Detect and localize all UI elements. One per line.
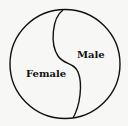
region-label-female: Female [26,68,66,79]
s-curve-divider [53,10,80,118]
gender-circle-diagram: Male Female [0,0,128,126]
outer-circle [10,10,120,119]
region-label-male: Male [77,49,105,60]
